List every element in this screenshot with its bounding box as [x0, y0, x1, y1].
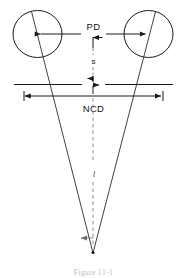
- left-sight-line: [32, 12, 94, 254]
- pd-label: PD: [87, 21, 101, 32]
- figure-caption: Figure 11-1: [74, 268, 113, 277]
- ncd-label: NCD: [83, 103, 104, 114]
- figure-container: PD s NCD l Figure 11-1: [0, 0, 187, 278]
- right-sight-line: [93, 12, 156, 254]
- l-label: l: [93, 169, 96, 179]
- s-label: s: [92, 57, 96, 66]
- convergence-point: [91, 251, 94, 254]
- optics-geometry-diagram: PD s NCD l Figure 11-1: [0, 0, 187, 278]
